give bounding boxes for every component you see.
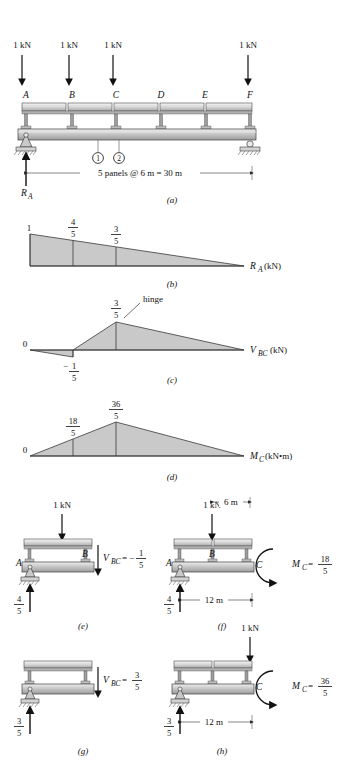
reaction-label-e: 4 5 [14, 594, 24, 616]
mid-d-den: 5 [71, 428, 75, 438]
result-label-e: V BC = − 1 5 [103, 548, 146, 570]
reaction-label-f: 4 5 [164, 594, 174, 616]
result-e-num: 1 [139, 548, 143, 558]
load-label-a: 1 kN [13, 40, 31, 50]
floor-beams-h [175, 671, 251, 684]
reaction-h-num: 3 [167, 716, 171, 726]
dip-c-den: 5 [72, 373, 76, 383]
reaction-ra: R A [20, 156, 33, 201]
caption-c: (c) [167, 375, 177, 385]
caption-e: (e) [78, 621, 88, 631]
axis-label-c-main: V [250, 345, 257, 355]
load-arrows-a: 1 kN 1 kN 1 kN 1 kN [13, 40, 257, 82]
panel-marker-2-label: 2 [117, 154, 121, 163]
ordinate-b-2-den: 5 [114, 236, 118, 246]
axis-label-d-units: (kN•m) [265, 451, 292, 461]
axis-label-c-units: (kN) [270, 345, 287, 355]
peak-d-num: 36 [112, 399, 121, 409]
reaction-g-num: 3 [17, 716, 21, 726]
reaction-e-den: 5 [17, 606, 21, 616]
floor-beams-g [25, 671, 90, 684]
figure-influence-lines: 1 kN 1 kN 1 kN 1 kN A B C D E F [0, 0, 345, 778]
peak-d-den: 5 [114, 411, 118, 421]
girder-e [22, 562, 94, 572]
panel-f: 1 kN 6 m A B C [164, 496, 332, 631]
stringer-g [24, 661, 92, 668]
influence-area-mc [30, 422, 244, 456]
node-labels-a: A B C D E F [22, 90, 253, 100]
result-f-den: 5 [323, 566, 327, 576]
caption-h: (h) [217, 746, 228, 756]
result-g-den: 5 [135, 682, 139, 692]
node-label-e-b: B [82, 549, 88, 559]
node-label-f-a: A [165, 558, 172, 568]
node-label-f: F [246, 90, 253, 100]
peak-label-c: 3 5 [111, 298, 121, 320]
floor-beams [21, 114, 255, 129]
axis-label-b: R A (kN) [249, 261, 281, 274]
result-f-num: 18 [321, 554, 330, 564]
peak-label-d: 36 5 [109, 399, 123, 421]
stringer-deck [22, 103, 252, 114]
stringer-f-right [214, 539, 252, 546]
girder-g [22, 684, 94, 694]
dip-c-num: 1 [72, 361, 76, 371]
mid-d-num: 18 [69, 416, 78, 426]
dim-12m-label-f: 12 m [205, 595, 223, 605]
panel-marker-1-label: 1 [96, 154, 100, 163]
girder-f [172, 562, 254, 572]
panel-e: 1 kN A B V [14, 500, 146, 631]
load-label-b: 1 kN [60, 40, 78, 50]
result-e-den: 5 [139, 560, 143, 570]
result-e-eq: = − [122, 553, 134, 563]
reaction-e-num: 4 [17, 594, 22, 604]
panel-c: 0 3 5 − 1 5 hinge V BC (kN) (c) [23, 294, 287, 385]
result-label-g: V BC = 3 5 [103, 670, 142, 692]
influence-area-vbc-negative [30, 350, 73, 357]
load-label-h: 1 kN [241, 623, 259, 633]
dim-12m-h: 12 m [180, 715, 252, 729]
stringer-h-left [174, 661, 212, 668]
result-label-f: M C = 18 5 [291, 554, 332, 576]
panel-b: 1 4 5 3 5 R A (kN) (b) [27, 217, 281, 289]
result-e-sub: BC [111, 557, 122, 566]
caption-g: (g) [78, 746, 89, 756]
caption-a: (a) [167, 195, 178, 205]
ordinate-b-2-num: 3 [114, 224, 118, 234]
node-label-d: D [157, 90, 165, 100]
dim-12m-label-h: 12 m [205, 717, 223, 727]
caption-b: (b) [167, 279, 178, 289]
main-girder [18, 129, 256, 140]
result-g-sub: BC [111, 679, 122, 688]
reaction-f-den: 5 [167, 606, 171, 616]
zero-label-d: 0 [23, 445, 28, 455]
load-label-f: 1 kN [239, 40, 257, 50]
axis-label-c: V BC (kN) [250, 345, 287, 358]
caption-f: (f) [218, 621, 227, 631]
result-f-eq: = [308, 559, 313, 569]
span-dimension: 5 panels @ 6 m = 30 m [26, 166, 252, 180]
load-label-f2: 1 kN [203, 500, 221, 510]
result-h-num: 36 [321, 676, 330, 686]
load-label-e: 1 kN [53, 500, 71, 510]
result-label-h: M C = 36 5 [291, 676, 332, 698]
ordinate-label-b-1: 4 5 [68, 217, 78, 239]
axis-label-d: M C (kN•m) [249, 451, 292, 464]
node-label-b: B [69, 90, 75, 100]
result-g-num: 3 [135, 670, 139, 680]
reaction-sub-ra: A [27, 192, 33, 201]
ordinate-b-1-num: 4 [71, 217, 76, 227]
reaction-h-den: 5 [167, 728, 171, 738]
result-h-den: 5 [323, 688, 327, 698]
peak-c-den: 5 [114, 310, 118, 320]
dip-c-sign: − [64, 361, 69, 371]
result-g-main: V [103, 675, 110, 685]
reaction-f-num: 4 [167, 594, 172, 604]
mid-label-d: 18 5 [66, 416, 80, 438]
hinge-annotation: hinge [124, 294, 163, 318]
girder-h [172, 684, 254, 694]
span-dimension-label: 5 panels @ 6 m = 30 m [98, 168, 182, 178]
reaction-label-g: 3 5 [14, 716, 24, 738]
load-label-c: 1 kN [104, 40, 122, 50]
panel-d: 0 18 5 36 5 M C (kN•m) (d) [23, 399, 292, 482]
